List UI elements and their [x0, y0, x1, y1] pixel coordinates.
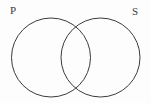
set-label-s: S — [132, 6, 138, 17]
venn-diagram-canvas — [0, 0, 151, 103]
venn-diagram-figure: P S — [0, 0, 151, 103]
set-label-p: P — [10, 5, 16, 16]
